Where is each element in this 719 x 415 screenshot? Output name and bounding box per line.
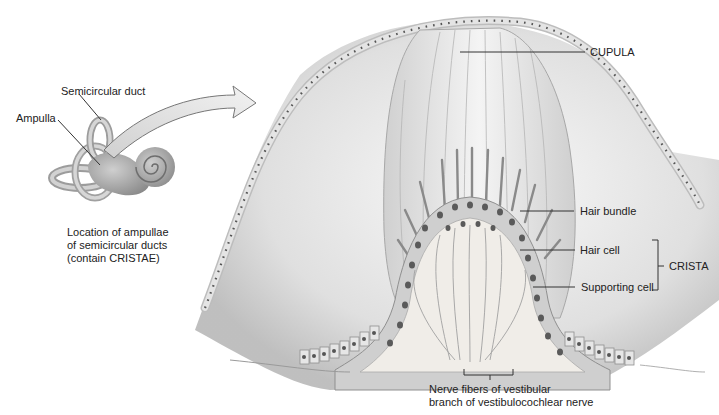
nerve-caption-line-1: Nerve fibers of vestibular bbox=[429, 383, 593, 396]
label-hair-cell: Hair cell bbox=[580, 244, 620, 256]
inner-ear-inset-illustration bbox=[52, 86, 256, 198]
nerve-caption-line-2: branch of vestibulocochlear nerve bbox=[429, 396, 593, 409]
label-crista: CRISTA bbox=[669, 260, 709, 272]
nerve-caption: Nerve fibers of vestibular branch of ves… bbox=[429, 383, 593, 409]
label-supporting-cell: Supporting cell bbox=[581, 281, 654, 293]
ampulla-section-illustration bbox=[195, 21, 719, 390]
diagram-canvas: Semicircular duct Ampulla Location of am… bbox=[0, 0, 719, 415]
inset-caption-line-1: Location of ampullae bbox=[67, 226, 169, 239]
label-cupula: CUPULA bbox=[590, 46, 635, 58]
inset-caption-line-3: (contain CRISTAE) bbox=[67, 252, 169, 265]
label-hair-bundle: Hair bundle bbox=[580, 205, 636, 217]
inset-caption-line-2: of semicircular ducts bbox=[67, 239, 169, 252]
inset-caption: Location of ampullae of semicircular duc… bbox=[67, 226, 169, 265]
label-ampulla: Ampulla bbox=[16, 112, 56, 124]
label-semicircular-duct: Semicircular duct bbox=[61, 85, 145, 97]
